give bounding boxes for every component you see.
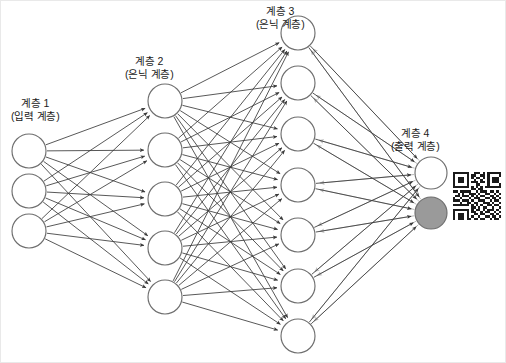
- qr-module: [496, 209, 498, 211]
- node-hidden-layer-3-2[interactable]: [281, 66, 315, 100]
- qr-module: [474, 181, 476, 183]
- qr-module: [474, 188, 476, 190]
- node-hidden-layer-3-6[interactable]: [281, 269, 315, 303]
- qr-module: [494, 204, 496, 206]
- qr-module: [483, 213, 485, 215]
- qr-module: [471, 181, 473, 183]
- qr-module: [478, 183, 480, 185]
- qr-module: [490, 213, 492, 215]
- qr-module: [490, 186, 492, 188]
- node-hidden-layer-2-3[interactable]: [148, 182, 182, 216]
- qr-module: [496, 181, 498, 183]
- qr-module: [496, 204, 498, 206]
- qr-module: [478, 193, 480, 195]
- qr-module: [476, 172, 478, 174]
- edge-hidden2-to-hidden3: [174, 51, 286, 233]
- node-hidden-layer-2-5[interactable]: [148, 280, 182, 314]
- qr-module: [480, 195, 482, 197]
- qr-module: [458, 172, 460, 174]
- node-hidden-layer-2-4[interactable]: [148, 231, 182, 265]
- qr-module: [494, 218, 496, 220]
- qr-module: [467, 174, 469, 176]
- forward-edges: [41, 43, 419, 330]
- qr-module: [487, 179, 489, 181]
- node-hidden-layer-2-1[interactable]: [148, 84, 182, 118]
- edge-hidden3-to-output: [313, 143, 413, 202]
- qr-module: [458, 181, 460, 183]
- qr-module: [478, 172, 480, 174]
- qr-module: [455, 209, 457, 211]
- qr-module: [492, 215, 494, 217]
- edge-hidden3-to-output: [309, 189, 418, 322]
- qr-module: [453, 183, 455, 185]
- node-output-layer-2[interactable]: [415, 197, 447, 229]
- node-input-layer-1[interactable]: [12, 134, 46, 168]
- qr-module: [458, 199, 460, 201]
- node-hidden-layer-3-3[interactable]: [281, 117, 315, 151]
- qr-module: [474, 174, 476, 176]
- qr-module: [492, 195, 494, 197]
- qr-module: [492, 177, 494, 179]
- qr-module: [467, 209, 469, 211]
- edge-hidden2-to-hidden3: [180, 258, 280, 324]
- qr-module: [487, 183, 489, 185]
- node-hidden-layer-3-5[interactable]: [281, 218, 315, 252]
- qr-module: [480, 199, 482, 201]
- node-output-layer-1[interactable]: [415, 157, 447, 189]
- node-hidden-layer-3-7[interactable]: [281, 319, 315, 353]
- qr-module: [474, 206, 476, 208]
- qr-module: [474, 202, 476, 204]
- edge-hidden2-to-hidden3: [179, 47, 283, 138]
- node-input-layer-2[interactable]: [12, 174, 46, 208]
- qr-module: [467, 179, 469, 181]
- qr-module: [480, 213, 482, 215]
- qr-module: [483, 172, 485, 174]
- qr-module: [462, 195, 464, 197]
- qr-module: [494, 186, 496, 188]
- qr-module: [460, 209, 462, 211]
- qr-module: [462, 193, 464, 195]
- qr-module: [483, 206, 485, 208]
- qr-module: [460, 172, 462, 174]
- qr-code-container[interactable]: [453, 169, 501, 223]
- qr-module: [492, 181, 494, 183]
- edge-input-to-hidden2: [42, 116, 150, 219]
- qr-module: [487, 202, 489, 204]
- qr-module: [464, 172, 466, 174]
- qr-module: [453, 190, 455, 192]
- qr-module: [476, 213, 478, 215]
- qr-module: [480, 211, 482, 213]
- qr-module: [487, 186, 489, 188]
- qr-module: [476, 218, 478, 220]
- qr-module: [490, 195, 492, 197]
- qr-module: [480, 181, 482, 183]
- node-hidden-layer-3-1[interactable]: [281, 16, 315, 50]
- qr-module: [471, 199, 473, 201]
- qr-module: [460, 204, 462, 206]
- qr-module: [462, 215, 464, 217]
- edge-hidden3-to-output: [311, 227, 416, 324]
- qr-module: [483, 177, 485, 179]
- node-hidden-layer-3-4[interactable]: [281, 168, 315, 202]
- qr-module: [453, 181, 455, 183]
- qr-module: [460, 213, 462, 215]
- node-hidden-layer-2-2[interactable]: [148, 133, 182, 167]
- qr-module: [469, 193, 471, 195]
- qr-module: [492, 206, 494, 208]
- qr-module: [467, 190, 469, 192]
- edge-input-to-hidden2: [47, 150, 144, 151]
- qr-module: [487, 197, 489, 199]
- node-input-layer-3[interactable]: [12, 214, 46, 248]
- qr-module: [483, 218, 485, 220]
- qr-module: [471, 193, 473, 195]
- qr-module: [483, 174, 485, 176]
- qr-module: [487, 177, 489, 179]
- qr-module: [492, 213, 494, 215]
- qr-code-icon[interactable]: [453, 172, 501, 220]
- qr-module: [499, 215, 501, 217]
- qr-module: [499, 193, 501, 195]
- edge-hidden2-to-hidden3: [181, 244, 278, 289]
- edge-hidden3-to-output: [311, 96, 417, 199]
- edge-hidden3-to-output: [309, 47, 419, 196]
- qr-module: [487, 215, 489, 217]
